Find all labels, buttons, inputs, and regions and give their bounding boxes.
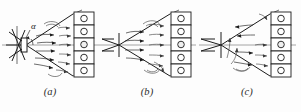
cone-lower-edge	[221, 45, 270, 76]
collector-grid[interactable]	[171, 12, 191, 77]
grid-cell-circle	[178, 54, 185, 61]
flow-streaks	[227, 14, 268, 71]
grid-cell-circle	[81, 15, 88, 22]
grid-cell-circle-highlight	[178, 41, 185, 48]
grid-cell-circle	[178, 28, 185, 35]
panel-c: (c)	[197, 0, 297, 112]
panel-b-caption: (b)	[97, 86, 197, 97]
figure-root: α	[0, 0, 301, 112]
grid-cell-circle	[278, 28, 285, 35]
grid-cell-circle	[81, 67, 88, 74]
angle-label-alpha: α	[31, 21, 36, 31]
grid-cell-circle	[278, 67, 285, 74]
grid-cell-circle-highlight	[278, 41, 285, 48]
grid-cell-circle	[178, 67, 185, 74]
grid-cell-circle-highlight	[81, 41, 88, 48]
flow-streaks	[34, 22, 71, 77]
panel-c-caption: (c)	[197, 86, 297, 97]
grid-cell-circle	[81, 28, 88, 35]
grid-cell-circle	[81, 54, 88, 61]
flow-streaks	[125, 21, 164, 74]
grid-cell-circle	[278, 54, 285, 61]
cone-upper-edge	[221, 14, 270, 45]
grid-cell-circle	[278, 15, 285, 22]
collector-grid[interactable]	[271, 12, 291, 77]
grid-cell-circle	[178, 15, 185, 22]
panel-a: α	[0, 0, 100, 112]
nozzle-body	[21, 38, 27, 52]
panel-c-diagram	[197, 0, 297, 90]
panel-b-diagram	[97, 0, 197, 90]
collector-grid[interactable]	[74, 12, 94, 77]
panel-a-caption: (a)	[0, 86, 100, 97]
cone-upper-edge	[119, 14, 170, 45]
panel-a-diagram: α	[0, 0, 100, 90]
panel-b: (b)	[97, 0, 197, 112]
